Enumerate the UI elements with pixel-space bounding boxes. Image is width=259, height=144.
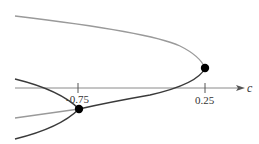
tick-label-neg-075: -0.75: [66, 93, 89, 105]
tick-label-025: 0.25: [195, 94, 215, 106]
saddle-node-point: [201, 64, 209, 72]
unstable-fixed-point-branch: [15, 16, 205, 68]
bifurcation-diagram: c -0.75 0.25: [0, 0, 259, 144]
period-doubling-point: [75, 105, 83, 113]
axis-label-c: c: [247, 81, 253, 95]
